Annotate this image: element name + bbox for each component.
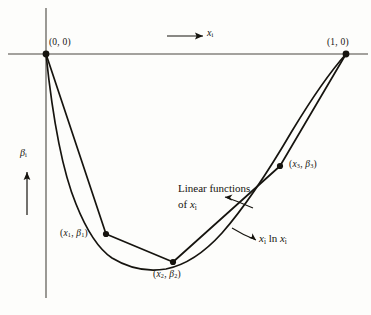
point-x3-beta3 — [277, 163, 283, 169]
x-subscript-2: i — [285, 238, 287, 246]
point-origin — [43, 51, 50, 58]
vertex-label-x2: (x2, β2) — [153, 270, 181, 280]
paren-close: ) — [178, 269, 181, 279]
y-axis-arrow-icon — [24, 172, 31, 215]
point-x2-beta2 — [170, 259, 176, 265]
linear-functions-line1: Linear functions — [178, 182, 250, 195]
point-x1-beta1 — [103, 231, 109, 237]
curve-note-leader-icon — [232, 228, 258, 240]
paren-close: ) — [85, 228, 88, 238]
of-word: of — [178, 198, 190, 210]
right-endpoint-label: (1, 0) — [327, 38, 349, 48]
x-axis-label: xi — [207, 28, 213, 39]
origin-label: (0, 0) — [49, 38, 71, 48]
x-subscript: i — [195, 204, 197, 212]
curve-equation-annotation: xi ln xi — [259, 232, 287, 246]
point-one-zero — [343, 51, 350, 58]
x-axis-arrow-icon — [167, 33, 203, 40]
vertex-label-x1: (x1, β1) — [60, 229, 88, 239]
figure-canvas: (0, 0) (1, 0) xi βi (x1, β1) (x2, β2) (x… — [0, 0, 371, 315]
y-axis-label: βi — [20, 148, 27, 159]
ln-operator: ln — [266, 232, 280, 244]
linear-functions-line2: of xi — [178, 198, 250, 212]
paren-close: ) — [314, 159, 317, 169]
linear-functions-annotation: Linear functions of xi — [178, 182, 250, 212]
chord-polyline — [46, 54, 346, 262]
vertex-label-x3: (x3, β3) — [289, 160, 317, 170]
y-axis-label-subscript: i — [25, 151, 27, 158]
x-axis-label-subscript: i — [211, 31, 213, 38]
